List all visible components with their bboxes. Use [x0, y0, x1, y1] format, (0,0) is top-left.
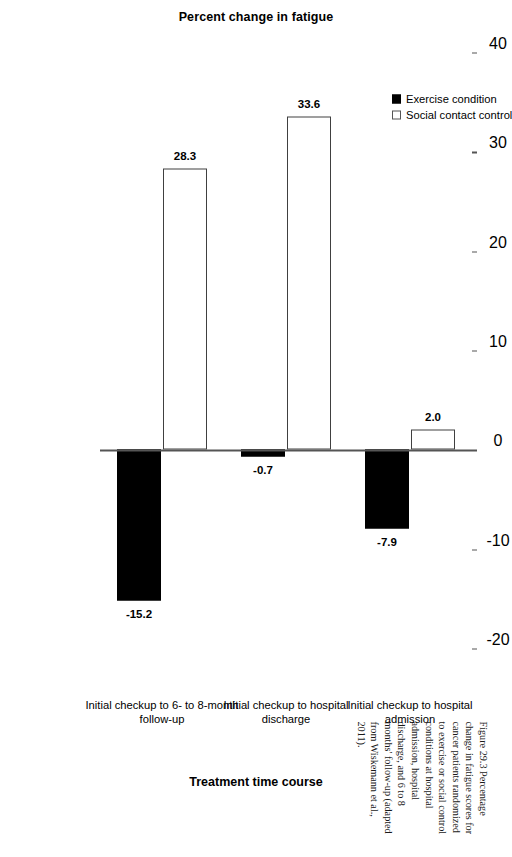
- legend-item: Exercise condition: [392, 92, 512, 104]
- bar: [365, 449, 409, 527]
- bar: [163, 168, 207, 449]
- bar-value-label: -15.2: [126, 607, 152, 619]
- bar-value-label: -0.7: [253, 463, 273, 475]
- value-axis-tick-mark: [472, 251, 477, 252]
- legend-label: Social contact control: [406, 108, 512, 120]
- bar-value-label: 2.0: [425, 410, 441, 422]
- category-label-line: follow-up: [62, 712, 262, 726]
- legend-item: Social contact control: [392, 108, 512, 120]
- open-square-icon: [392, 110, 401, 119]
- category-label: Initial checkup to 6- to 8-monthfollow-u…: [62, 699, 262, 726]
- value-axis-tick-mark: [472, 52, 477, 53]
- bar-value-label: 28.3: [174, 149, 196, 161]
- zero-axis-line: [100, 449, 472, 450]
- value-axis-tick: 0: [494, 431, 503, 449]
- value-axis-tick: 10: [489, 332, 507, 350]
- value-axis-tick: 20: [489, 233, 507, 251]
- value-axis-tick-mark: [472, 151, 477, 152]
- value-axis-tick: 30: [489, 133, 507, 151]
- filled-square-icon: [392, 94, 401, 103]
- category-axis-title: Treatment time course: [0, 770, 512, 794]
- value-axis-tick-mark: [472, 648, 477, 649]
- bar-value-label: -7.9: [377, 535, 397, 547]
- plot-canvas: -7.9-0.7-15.22.033.628.3: [100, 52, 472, 648]
- legend-label: Exercise condition: [406, 92, 497, 104]
- bar: [411, 429, 455, 449]
- category-axis-labels: Initial checkup to hospitaladmissionInit…: [100, 656, 472, 776]
- value-axis-tick-mark: [472, 449, 477, 450]
- chart-legend: Exercise conditionSocial contact control: [392, 92, 512, 120]
- category-label-line: Initial checkup to 6- to 8-month: [62, 699, 262, 713]
- value-axis-tick: -20: [486, 630, 509, 648]
- bar: [117, 449, 161, 600]
- value-axis-tick-mark: [472, 350, 477, 351]
- figure-caption-number: Figure 29.3: [478, 721, 489, 768]
- value-axis-tick: 40: [489, 34, 507, 52]
- value-axis-tick: -10: [486, 531, 509, 549]
- figure-page: Figure 29.3 Percentage change in fatigue…: [0, 0, 512, 857]
- bar-value-label: 33.6: [298, 97, 320, 109]
- value-axis-title: Percent change in fatigue: [0, 6, 512, 26]
- bar: [287, 116, 331, 450]
- bar-chart: Percent change in fatigue -7.9-0.7-15.22…: [0, 0, 512, 700]
- value-axis-tick-mark: [472, 549, 477, 550]
